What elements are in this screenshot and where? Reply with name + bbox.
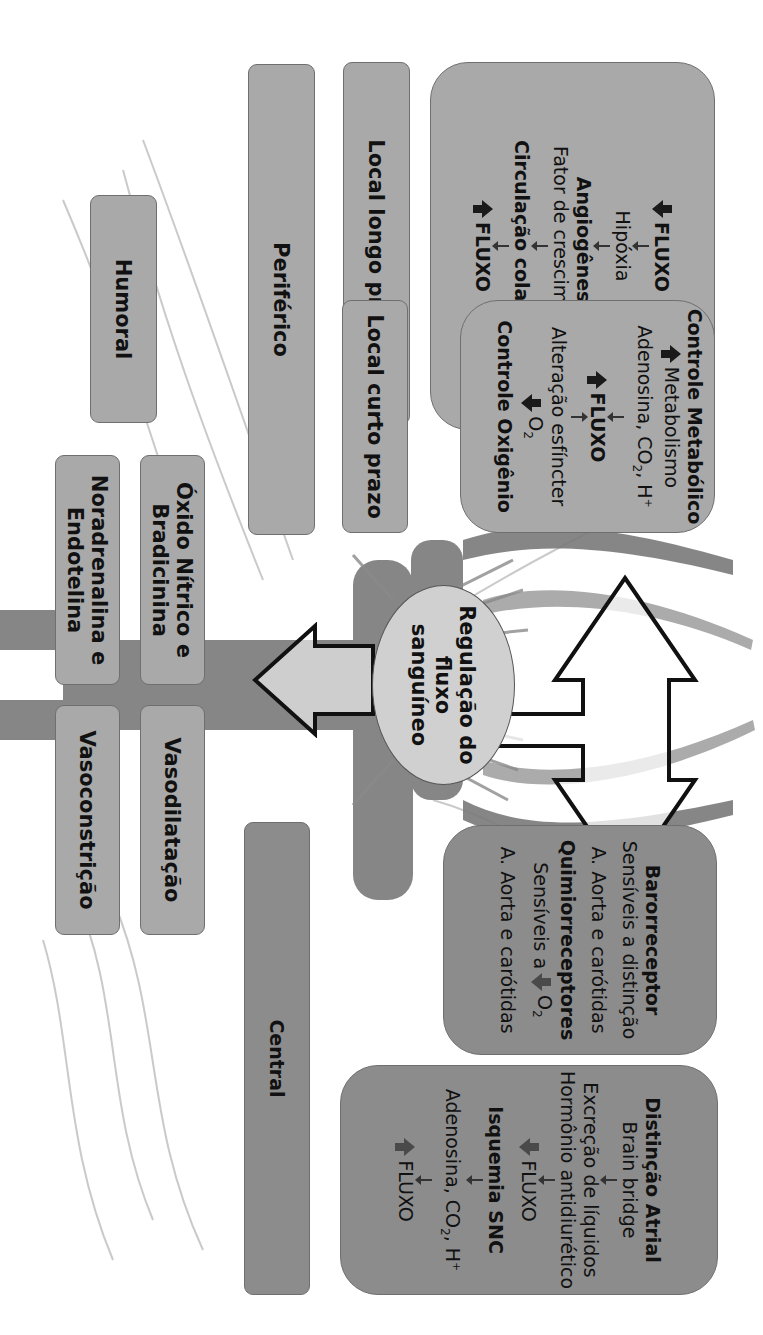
small-arrow-icon bbox=[571, 416, 585, 418]
diagram-canvas: Regulação do fluxo sanguíneo FLUXO Hipóx… bbox=[0, 0, 763, 1335]
chemoreceptor-location-text: A. Aorta e carótidas bbox=[496, 846, 519, 1033]
central-box: Central bbox=[244, 822, 310, 1295]
small-arrow-icon bbox=[610, 416, 624, 418]
oxygen-decrease-line: O2 bbox=[516, 394, 547, 439]
chemoreceptor-title: Quimiorreceptores bbox=[556, 840, 579, 1041]
sphincter-change-text: Alteração esfíncter bbox=[547, 327, 570, 507]
small-arrow-icon bbox=[541, 1179, 555, 1181]
fluid-excretion-text: Excreção de líquidos bbox=[579, 1082, 602, 1278]
local-short-term-box: Local curto prazo bbox=[342, 300, 408, 533]
arrow-down-icon bbox=[531, 973, 551, 991]
small-arrow-icon bbox=[469, 1179, 483, 1181]
atrial-distension-title: Distinção Atrial bbox=[641, 1097, 664, 1262]
chemoreceptor-sensitivity-line: Sensíveis a O2 bbox=[525, 862, 556, 1017]
metabolism-line: Metabolismo bbox=[660, 345, 683, 488]
metabolites-line: Adenosina, CO2, H+ bbox=[433, 1089, 468, 1271]
arrow-up-icon bbox=[395, 1138, 415, 1156]
metabolic-control-title: Controle Metabólico bbox=[683, 309, 706, 525]
flow-decrease-line: FLUXO bbox=[651, 200, 674, 292]
center-label-line-1: Regulação do bbox=[456, 605, 480, 765]
nitric-oxide-bradykinin-box: Óxido Nítrico e Bradicinina bbox=[140, 455, 205, 685]
receptors-box: Barorreceptor Sensíveis a distinção A. A… bbox=[443, 825, 717, 1055]
arrow-down-icon bbox=[519, 1138, 539, 1156]
humoral-box: Humoral bbox=[90, 195, 157, 423]
oxygen-control-text: Controle Oxigênio bbox=[493, 320, 516, 513]
flow-decrease-line: FLUXO bbox=[517, 1138, 540, 1221]
flow-increase-line: FLUXO bbox=[472, 200, 495, 292]
noradrenaline-endothelin-box: Noradrenalina e Endotelina bbox=[55, 455, 120, 685]
flow-increase-line: FLUXO bbox=[394, 1138, 417, 1221]
flow-increase-line: FLUXO bbox=[586, 371, 609, 463]
small-arrow-icon bbox=[597, 245, 611, 247]
vasodilation-box: Vasodilatação bbox=[140, 705, 205, 935]
arrow-up-icon bbox=[662, 345, 682, 363]
small-arrow-icon bbox=[418, 1179, 432, 1181]
cns-ischemia-title: Isquemia SNC bbox=[484, 1106, 507, 1254]
arrow-up-icon bbox=[473, 200, 493, 218]
baroreceptor-sensitivity-text: Sensíveis a distinção bbox=[618, 841, 641, 1040]
baroreceptor-title: Barorreceptor bbox=[641, 865, 664, 1016]
antidiuretic-hormone-text: Hormônio antidiurético bbox=[556, 1071, 579, 1289]
baroreceptor-location-text: A. Aorta e carótidas bbox=[587, 846, 610, 1033]
arrow-up-icon bbox=[587, 371, 607, 389]
small-arrow-icon bbox=[496, 245, 510, 247]
peripheral-box: Periférico bbox=[248, 64, 315, 535]
small-arrow-icon bbox=[535, 245, 549, 247]
center-node-regulacao: Regulação do fluxo sanguíneo bbox=[372, 585, 515, 785]
arrow-down-outline-icon bbox=[251, 622, 375, 738]
metabolic-control-box: Controle Metabólico Metabolismo Adenosin… bbox=[460, 300, 715, 533]
center-label-line-2: fluxo bbox=[432, 656, 456, 715]
vasoconstriction-box: Vasoconstrição bbox=[55, 705, 120, 935]
angiogenesis-text: Angiogênese bbox=[573, 177, 596, 316]
arrow-down-icon bbox=[652, 200, 672, 218]
hypoxia-text: Hipóxia bbox=[612, 211, 635, 282]
small-arrow-icon bbox=[603, 1179, 617, 1181]
atrial-distension-box: Distinção Atrial Brain bridge Excreção d… bbox=[340, 1065, 718, 1295]
arrow-down-icon bbox=[521, 394, 541, 412]
brain-bridge-text: Brain bridge bbox=[618, 1122, 641, 1239]
center-label-line-3: sanguíneo bbox=[408, 624, 432, 746]
metabolites-line: Adenosina, CO2, H+ bbox=[625, 325, 660, 507]
small-arrow-icon bbox=[636, 245, 650, 247]
